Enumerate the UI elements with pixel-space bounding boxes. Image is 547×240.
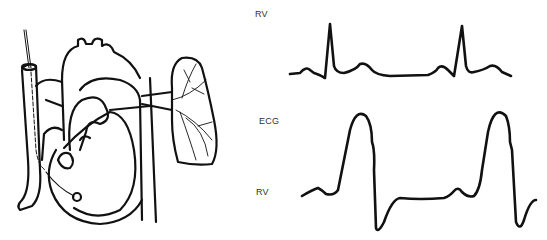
- heart-illustration: [18, 30, 216, 224]
- diagram-canvas: [0, 0, 547, 240]
- bottom-trace: [302, 112, 536, 230]
- top-trace: [290, 24, 511, 78]
